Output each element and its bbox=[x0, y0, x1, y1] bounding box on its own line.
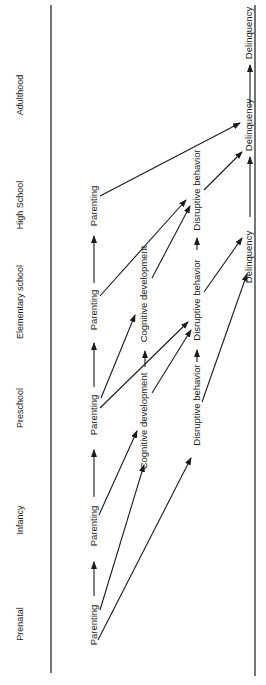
node-parenting-preschool: Parenting bbox=[88, 395, 99, 436]
node-disruptive-preschool: Disruptive behavior bbox=[191, 364, 202, 445]
stage-label-highschool: High School bbox=[15, 181, 25, 230]
stage-label-prenatal: Prenatal bbox=[15, 607, 25, 641]
node-parenting-prenatal: Parenting bbox=[88, 605, 99, 646]
node-cognitive-preschool: Cognitive development bbox=[138, 372, 149, 469]
node-disruptive-highschool: Disruptive behavior bbox=[191, 149, 202, 230]
node-delinquency-adulthood: Delinquency bbox=[243, 7, 254, 60]
node-cognitive-elementary: Cognitive development bbox=[138, 245, 149, 342]
edge-parenting-infancy-cognitive-preschool bbox=[99, 431, 137, 515]
edge-disruptive-elementary-delinquency-elementary bbox=[204, 238, 242, 292]
edge-parenting-highschool-delinquency-adulthood bbox=[100, 123, 240, 196]
node-delinquency-elementary: Delinquency bbox=[243, 231, 254, 284]
stage-labels: Prenatal Infancy Preschool Elementary sc… bbox=[15, 75, 25, 641]
node-disruptive-elementary: Disruptive behavior bbox=[191, 259, 202, 340]
developmental-pathway-diagram: Prenatal Infancy Preschool Elementary sc… bbox=[0, 0, 266, 685]
stage-label-elementary: Elementary school bbox=[15, 265, 25, 339]
edges bbox=[94, 65, 250, 640]
stage-label-preschool: Preschool bbox=[15, 388, 25, 428]
node-parenting-elementary: Parenting bbox=[88, 290, 99, 331]
node-parenting-infancy: Parenting bbox=[88, 506, 99, 547]
stage-label-infancy: Infancy bbox=[15, 505, 25, 535]
edge-cognitive-preschool-disruptive-elementary bbox=[152, 330, 191, 393]
edge-disruptive-preschool-delinquency-elementary bbox=[202, 274, 247, 402]
stage-label-adulthood: Adulthood bbox=[15, 75, 25, 116]
edge-disruptive-highschool-delinquency-highschool bbox=[204, 152, 242, 190]
edge-parenting-prenatal-cognitive-preschool bbox=[100, 465, 144, 610]
node-delinquency-highschool: Delinquency bbox=[243, 99, 254, 152]
edge-parenting-preschool-cognitive-elementary bbox=[101, 315, 135, 398]
node-parenting-highschool: Parenting bbox=[88, 186, 99, 227]
